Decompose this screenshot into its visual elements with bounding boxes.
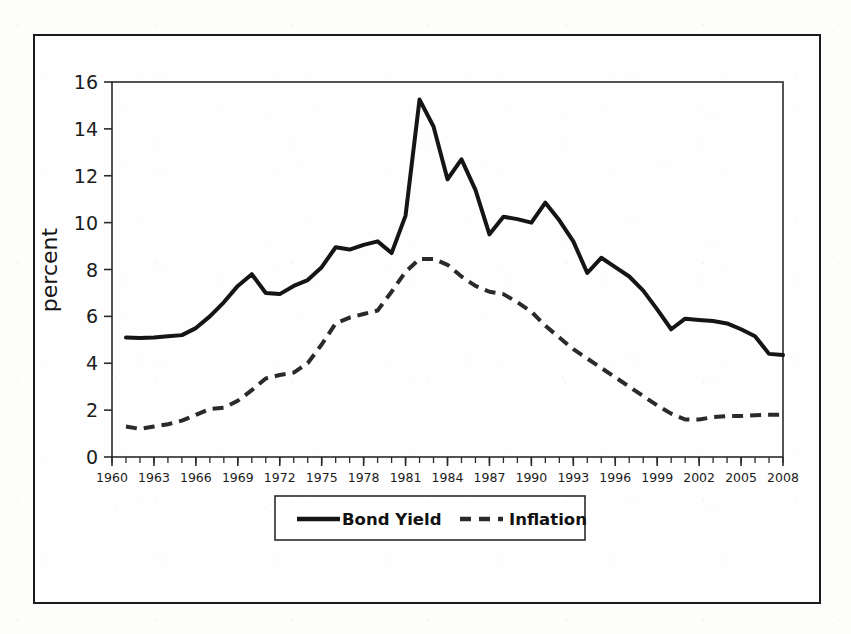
figure-outer-frame: 0246810121416 19601963196619691972197519…	[33, 34, 821, 604]
x-tick-label-1987: 1987	[474, 470, 506, 485]
x-tick-label-1996: 1996	[599, 470, 631, 485]
x-tick-label-1993: 1993	[557, 470, 589, 485]
series-line-bond-yield	[126, 100, 783, 355]
y-tick-label-10: 10	[74, 212, 98, 234]
x-axis-tick-labels: 1960196319661969197219751978198119841987…	[96, 470, 799, 485]
y-tick-label-12: 12	[74, 165, 98, 187]
x-tick-label-1966: 1966	[180, 470, 212, 485]
y-axis-title: percent	[37, 227, 62, 312]
chart-page: 0246810121416 19601963196619691972197519…	[0, 0, 851, 634]
plot-frame	[112, 82, 783, 457]
x-tick-label-1990: 1990	[515, 470, 547, 485]
x-axis-major-ticks	[112, 457, 783, 466]
series-line-inflation	[126, 259, 783, 429]
x-tick-label-1978: 1978	[348, 470, 380, 485]
y-tick-label-4: 4	[86, 352, 98, 374]
y-tick-label-16: 16	[74, 71, 98, 93]
x-tick-label-1972: 1972	[264, 470, 296, 485]
x-tick-label-1969: 1969	[222, 470, 254, 485]
x-tick-label-1963: 1963	[138, 470, 170, 485]
x-tick-label-2005: 2005	[725, 470, 757, 485]
legend: Bond Yield Inflation	[275, 496, 587, 540]
legend-label-inflation: Inflation	[509, 510, 587, 529]
x-tick-label-1981: 1981	[390, 470, 422, 485]
y-tick-label-6: 6	[86, 305, 98, 327]
x-tick-label-2008: 2008	[767, 470, 799, 485]
legend-label-bond-yield: Bond Yield	[342, 510, 441, 529]
y-tick-label-14: 14	[74, 118, 98, 140]
plot-area-border	[112, 82, 783, 457]
y-tick-label-8: 8	[86, 259, 98, 281]
bond-yield-inflation-line-chart: 0246810121416 19601963196619691972197519…	[35, 36, 819, 602]
y-tick-label-0: 0	[86, 446, 98, 468]
y-axis-ticks	[104, 82, 112, 457]
x-tick-label-1975: 1975	[306, 470, 338, 485]
x-tick-label-1999: 1999	[641, 470, 673, 485]
x-tick-label-1984: 1984	[432, 470, 464, 485]
series-lines	[126, 100, 783, 429]
x-tick-label-1960: 1960	[96, 470, 128, 485]
x-tick-label-2002: 2002	[683, 470, 715, 485]
y-tick-label-2: 2	[86, 399, 98, 421]
y-axis-tick-labels: 0246810121416	[74, 71, 98, 468]
